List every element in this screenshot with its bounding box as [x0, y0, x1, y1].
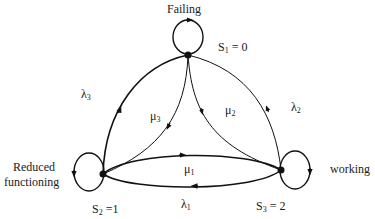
label-lambda2: λ2	[291, 101, 301, 117]
node-s2	[100, 171, 107, 178]
label-working: working	[330, 163, 370, 176]
label-s1-state: S1 = 0	[218, 41, 247, 57]
label-s2-state: S2 =1	[92, 203, 118, 219]
self-loop-s2	[74, 153, 104, 191]
label-lambda1: λ1	[181, 198, 191, 214]
node-s1	[185, 52, 192, 59]
label-s3-state: S3 = 2	[256, 200, 285, 216]
label-mu3: μ3	[150, 110, 160, 126]
label-mu1: μ1	[184, 163, 194, 179]
label-failing: Failing	[167, 3, 201, 16]
self-loop-s1	[173, 20, 203, 54]
label-lambda3: λ3	[81, 88, 91, 104]
node-s3	[278, 167, 285, 174]
label-reduced-functioning: Reduced functioning	[4, 160, 59, 190]
label-mu2: μ2	[225, 104, 235, 120]
